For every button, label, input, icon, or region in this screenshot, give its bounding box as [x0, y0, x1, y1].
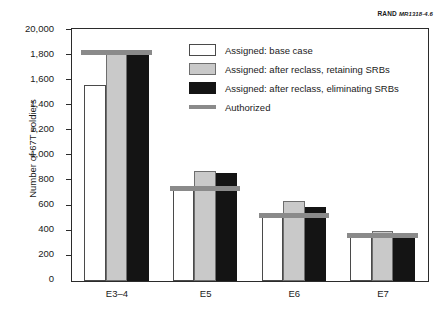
- x-axis-label-E5: E5: [166, 288, 246, 299]
- bar-retain-E7: [372, 231, 394, 281]
- legend-swatch-authorized: [189, 101, 216, 113]
- legend-item: Assigned: base case: [189, 41, 399, 59]
- authorized-marker-E6: [259, 213, 330, 218]
- y-axis-tick: [66, 205, 72, 206]
- bar-retain-E34: [106, 53, 128, 281]
- legend-item: Authorized: [189, 98, 399, 116]
- legend-item: Assigned: after reclass, retaining SRBs: [189, 60, 399, 78]
- x-axis-label-E34: E3–4: [77, 288, 157, 299]
- y-axis-tick: [66, 129, 72, 130]
- bar-eliminate-E6: [305, 207, 327, 281]
- y-axis-label: 1,800: [0, 48, 54, 59]
- y-axis-label: 20,000: [0, 23, 54, 34]
- legend-label: Authorized: [225, 102, 270, 113]
- bar-base-E7: [350, 236, 372, 281]
- legend-swatch-retain: [189, 63, 216, 75]
- y-axis-label: 1,400: [0, 98, 54, 109]
- y-axis-tick: [66, 154, 72, 155]
- legend-label: Assigned: after reclass, eliminating SRB…: [225, 83, 399, 94]
- y-axis-tick: [66, 255, 72, 256]
- y-axis-label: 1,200: [0, 123, 54, 134]
- y-axis-tick: [66, 230, 72, 231]
- y-axis-tick: [66, 179, 72, 180]
- y-axis-tick: [66, 104, 72, 105]
- bar-eliminate-E34: [127, 53, 149, 281]
- y-axis-label: 600: [0, 198, 54, 209]
- y-axis-tick: [66, 79, 72, 80]
- chart-legend: Assigned: base caseAssigned: after recla…: [189, 41, 399, 117]
- bar-eliminate-E7: [393, 236, 415, 281]
- bar-base-E34: [84, 85, 106, 281]
- authorized-marker-E7: [347, 233, 418, 238]
- source-credit: RAND MR1318-4.6: [377, 10, 433, 17]
- chart-figure: RAND MR1318-4.6 Number of 67T soldiers 0…: [0, 0, 441, 321]
- source-credit-org: RAND: [377, 10, 397, 17]
- bar-base-E6: [262, 216, 284, 281]
- x-axis-label-E7: E7: [343, 288, 423, 299]
- legend-item: Assigned: after reclass, eliminating SRB…: [189, 79, 399, 97]
- y-axis-tick: [66, 29, 72, 30]
- y-axis-label: 800: [0, 173, 54, 184]
- legend-label: Assigned: base case: [225, 45, 313, 56]
- y-axis-label: 200: [0, 248, 54, 259]
- legend-swatch-eliminate: [189, 82, 216, 94]
- source-credit-figure-id: MR1318-4.6: [399, 11, 433, 17]
- y-axis-label: 0: [0, 273, 54, 284]
- x-axis-label-E6: E6: [254, 288, 334, 299]
- authorized-marker-E34: [81, 50, 152, 55]
- y-axis-label: 1,000: [0, 148, 54, 159]
- legend-label: Assigned: after reclass, retaining SRBs: [225, 64, 390, 75]
- y-axis-label: 1,600: [0, 73, 54, 84]
- legend-swatch-base: [189, 44, 216, 56]
- bar-base-E5: [173, 189, 195, 281]
- authorized-marker-E5: [170, 186, 241, 191]
- y-axis-tick: [66, 54, 72, 55]
- y-axis-label: 400: [0, 223, 54, 234]
